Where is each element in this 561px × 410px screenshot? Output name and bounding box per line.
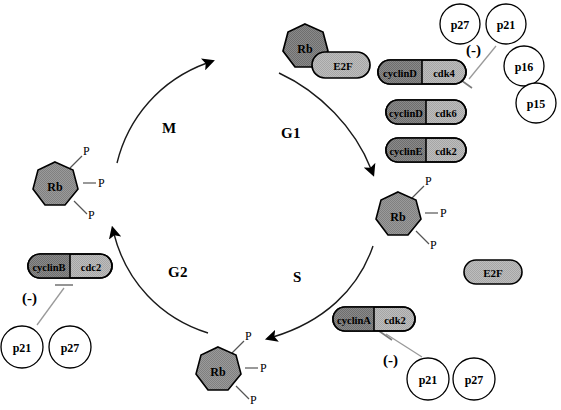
inhibition-mark-left: (-)	[22, 290, 37, 307]
inhibitor-label: p27	[465, 373, 484, 387]
inhibitor-label: p27	[451, 18, 470, 32]
phosphate-label: P	[88, 208, 95, 223]
complex-cycline-cdk2: cyclinE cdk2	[386, 138, 466, 162]
rb-node-g2-phase: Rb	[196, 341, 258, 399]
kinase-label: cdc2	[81, 262, 101, 273]
phase-label-g2: G2	[168, 264, 188, 281]
inhibitor-p16-top: p16	[504, 46, 544, 86]
inhibitor-p21-bottom: p21	[407, 358, 449, 400]
inhibitor-p15-top: p15	[516, 83, 556, 123]
cyclin-label: cyclinA	[337, 315, 371, 326]
cyclin-label: cyclinD	[383, 68, 417, 79]
inhibition-mark-bottom: (-)	[383, 352, 398, 369]
phosphate-label: P	[260, 361, 267, 376]
phosphate-label: P	[440, 206, 447, 221]
arrow-g1-phase	[279, 73, 371, 169]
complex-cyclinb-cdc2: cyclinB cdc2	[28, 254, 112, 278]
rb-e2f-complex: Rb E2F	[283, 24, 370, 78]
kinase-label: cdk6	[435, 108, 457, 119]
inhibitor-label: p21	[497, 18, 516, 32]
phosphate-label: P	[245, 329, 252, 344]
inhibitor-label: p27	[61, 341, 80, 355]
kinase-label: cdk2	[435, 146, 457, 157]
phase-label-m: M	[162, 120, 177, 137]
e2f-label: E2F	[483, 267, 503, 279]
inhibitor-p27-top: p27	[440, 4, 480, 44]
kinase-label: cdk2	[384, 315, 406, 326]
rb-node-s-phase: Rb	[376, 186, 438, 244]
inhibitor-p21-left: p21	[1, 326, 43, 368]
kinase-label: cdk4	[433, 68, 455, 79]
inhibitor-label: p15	[527, 97, 546, 111]
inhibitor-label: p16	[515, 60, 534, 74]
rb-label: Rb	[47, 180, 63, 194]
phosphate-label: P	[98, 176, 105, 191]
e2f-label: E2F	[333, 60, 353, 72]
rb-label: Rb	[390, 210, 406, 224]
inhibition-connector-left	[37, 285, 73, 325]
inhibitor-p21-top: p21	[486, 4, 526, 44]
cyclin-label: cyclinE	[389, 146, 422, 157]
inhibitor-label: p21	[13, 341, 32, 355]
inhibitor-p27-left: p27	[49, 326, 91, 368]
phosphate-label: P	[250, 393, 257, 408]
diagram-canvas: Rb Rb Rb Rb E2F E2F	[0, 0, 561, 410]
inhibitor-label: p21	[419, 373, 438, 387]
cycle-arrows	[114, 63, 373, 337]
phase-label-s: S	[293, 269, 302, 286]
inhibitor-p27-bottom: p27	[453, 358, 495, 400]
rb-label: Rb	[297, 42, 313, 56]
inhibition-connectors	[37, 46, 496, 357]
arrow-g2-phase	[114, 234, 208, 333]
complex-cyclind-cdk4: cyclinD cdk4	[378, 60, 466, 84]
cell-cycle-diagram: Rb Rb Rb Rb E2F E2F	[0, 0, 561, 410]
rb-label: Rb	[210, 365, 226, 379]
phosphate-label: P	[83, 144, 90, 159]
free-e2f-node: E2F	[464, 260, 522, 284]
cyclin-label: cyclinD	[389, 108, 423, 119]
phase-label-g1: G1	[281, 125, 301, 142]
arrow-m-phase	[117, 63, 207, 163]
cyclin-label: cyclinB	[32, 262, 65, 273]
phosphate-label: P	[430, 238, 437, 253]
phosphate-label: P	[425, 174, 432, 189]
complex-cyclind-cdk6: cyclinD cdk6	[386, 100, 466, 124]
rb-node-m-phase: Rb	[33, 156, 96, 214]
inhibition-mark-top: (-)	[466, 42, 481, 59]
complex-cyclina-cdk2: cyclinA cdk2	[333, 307, 415, 331]
